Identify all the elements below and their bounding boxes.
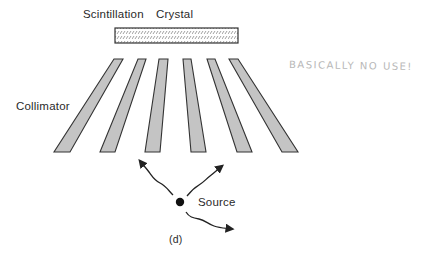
- emission-arrow-up-left: [140, 161, 173, 195]
- collimator-label: Collimator: [16, 100, 70, 112]
- caption-label: (d): [169, 233, 182, 245]
- source-point: [176, 198, 184, 206]
- crystal-label-scintillation: Scintillation: [83, 8, 144, 20]
- collimator-diagram: [0, 0, 430, 259]
- crystal-label-crystal: Crystal: [156, 8, 193, 20]
- collimator-strip: [145, 59, 168, 152]
- collimator: [54, 59, 298, 152]
- emission-arrow-up-right: [187, 166, 222, 196]
- collimator-strip: [183, 59, 206, 152]
- handwritten-note: BASICALLY NO USE!: [289, 59, 413, 72]
- emission-arrow-down-right: [186, 212, 232, 229]
- scintillation-crystal: [115, 28, 238, 43]
- source-label: Source: [198, 196, 236, 208]
